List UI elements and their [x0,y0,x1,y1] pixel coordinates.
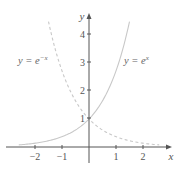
curve-label-e-x: y = ex [123,54,150,66]
chart-svg: −2 −1 1 2 1 2 3 4 x y y = e−x y = ex [0,0,182,169]
x-tick-label: 1 [114,151,119,162]
y-tick-label: 1 [80,113,85,124]
y-axis-label: y [79,10,85,22]
y-tick-label: 2 [80,85,85,96]
curve-e-x [19,22,130,145]
x-tick-label: −2 [30,151,41,162]
x-axis-arrow-icon [166,145,172,150]
y-axis-arrow-icon [87,13,92,19]
x-tick-label: −1 [57,151,68,162]
curve-label-e-minus-x: y = e−x [17,54,48,66]
x-tick-label: 2 [141,151,146,162]
y-tick-label: 3 [80,57,85,68]
x-axis-label: x [168,150,174,162]
y-tick-label: 4 [80,29,85,40]
exponential-chart: −2 −1 1 2 1 2 3 4 x y y = e−x y = ex [0,0,182,169]
curve-e-minus-x [49,22,160,145]
